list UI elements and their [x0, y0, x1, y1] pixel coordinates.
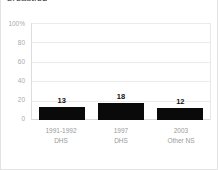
chart-title: breastfed — [7, 0, 213, 3]
x-axis-labels: 1991-1992 DHS 1997 DHS 2003 Other NS — [31, 126, 211, 146]
x-axis-label-2003: 2003 Other NS — [151, 126, 211, 146]
y-axis-tick-label-80: 80 — [0, 40, 25, 47]
y-axis-tick-label-0: 0 — [0, 116, 25, 123]
bar-value-label: 12 — [176, 97, 184, 106]
bar-2003 — [157, 108, 203, 120]
bar-value-label: 13 — [57, 96, 65, 105]
plot-area: 13 18 12 — [31, 23, 211, 120]
bar-1991-1992 — [39, 107, 85, 120]
chart-figure: breastfed 100% 80 60 40 20 0 13 18 12 — [0, 0, 218, 170]
bar-1997 — [98, 103, 144, 121]
bar-slot-1997: 18 — [91, 23, 150, 120]
bar-group: 13 18 12 — [32, 23, 210, 120]
bar-value-label: 18 — [117, 92, 125, 101]
y-axis-tick-label-100: 100% — [0, 21, 25, 28]
y-axis-tick-label-20: 20 — [0, 97, 25, 104]
x-axis-label-1991-1992: 1991-1992 DHS — [31, 126, 91, 146]
y-axis-tick-label-40: 40 — [0, 78, 25, 85]
x-axis-label-1997: 1997 DHS — [91, 126, 151, 146]
y-axis-tick-label-60: 60 — [0, 59, 25, 66]
bar-slot-2003: 12 — [151, 23, 210, 120]
bar-slot-1991-1992: 13 — [32, 23, 91, 120]
